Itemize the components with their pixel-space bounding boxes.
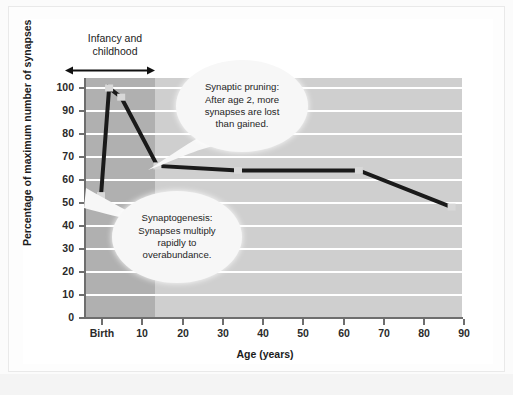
y-tick-70 xyxy=(79,156,84,158)
figure-page: 100 90 80 70 60 50 40 30 20 10 0 Birth 1… xyxy=(0,0,513,395)
x-tick-label-80: 80 xyxy=(404,327,444,339)
x-tick-40 xyxy=(262,319,264,325)
x-tick-label-60: 60 xyxy=(324,327,364,339)
y-tick-label-40: 40 xyxy=(48,220,74,230)
y-tick-90 xyxy=(79,110,84,112)
x-tick-label-30: 30 xyxy=(203,327,243,339)
pruning-line4: than gained. xyxy=(216,118,269,129)
x-tick-30 xyxy=(222,319,224,325)
pruning-line2: After age 2, more xyxy=(205,94,279,105)
x-tick-label-20: 20 xyxy=(163,327,203,339)
x-tick-label-40: 40 xyxy=(243,327,283,339)
y-tick-0 xyxy=(79,317,84,319)
x-tick-label-10: 10 xyxy=(122,327,162,339)
y-tick-label-20: 20 xyxy=(48,266,74,276)
callout-synaptogenesis: Synaptogenesis: Synapses multiply rapidl… xyxy=(112,191,242,283)
pruning-line1: Synaptic pruning: xyxy=(205,81,279,92)
x-tick-label-70: 70 xyxy=(364,327,404,339)
infancy-label-line2: childhood xyxy=(93,45,138,57)
y-tick-100 xyxy=(79,87,84,89)
y-tick-30 xyxy=(79,248,84,250)
y-tick-label-30: 30 xyxy=(48,243,74,253)
x-axis-title: Age (years) xyxy=(195,348,335,360)
y-tick-label-100: 100 xyxy=(48,82,74,92)
x-tick-label-90: 90 xyxy=(444,327,484,339)
callout-synaptic-pruning: Synaptic pruning: After age 2, more syna… xyxy=(176,60,308,152)
synaptogenesis-line3: rapidly to xyxy=(158,237,197,248)
x-tick-80 xyxy=(423,319,425,325)
callout-synaptic-pruning-text: Synaptic pruning: After age 2, more syna… xyxy=(191,81,294,131)
x-tick-50 xyxy=(302,319,304,325)
x-tick-label-50: 50 xyxy=(283,327,323,339)
y-tick-label-60: 60 xyxy=(48,174,74,184)
y-tick-label-0: 0 xyxy=(48,312,74,322)
synaptogenesis-line2: Synapses multiply xyxy=(138,225,215,236)
x-tick-90 xyxy=(463,319,465,325)
infancy-childhood-label: Infancy and childhood xyxy=(60,32,170,58)
x-tick-birth xyxy=(101,319,103,325)
pruning-line3: synapses are lost xyxy=(205,106,280,117)
page-bottom-strip xyxy=(0,374,513,395)
y-tick-10 xyxy=(79,294,84,296)
y-tick-label-90: 90 xyxy=(48,105,74,115)
infancy-range-arrow xyxy=(65,66,155,75)
y-tick-label-10: 10 xyxy=(48,289,74,299)
y-tick-20 xyxy=(79,271,84,273)
y-tick-60 xyxy=(79,179,84,181)
x-tick-10 xyxy=(141,319,143,325)
infancy-label-line1: Infancy and xyxy=(88,32,142,44)
callout-synaptogenesis-text: Synaptogenesis: Synapses multiply rapidl… xyxy=(124,212,229,262)
y-tick-label-50: 50 xyxy=(48,197,74,207)
y-tick-label-70: 70 xyxy=(48,151,74,161)
x-tick-20 xyxy=(182,319,184,325)
y-axis-title: Percentage of maximum number of synapses xyxy=(21,46,33,246)
x-tick-70 xyxy=(383,319,385,325)
y-tick-80 xyxy=(79,133,84,135)
x-tick-60 xyxy=(343,319,345,325)
x-tick-label-birth: Birth xyxy=(82,327,122,339)
synaptogenesis-line1: Synaptogenesis: xyxy=(142,212,213,223)
y-tick-label-80: 80 xyxy=(48,128,74,138)
gridline-10 xyxy=(85,294,462,296)
synaptogenesis-line4: overabundance. xyxy=(143,249,212,260)
